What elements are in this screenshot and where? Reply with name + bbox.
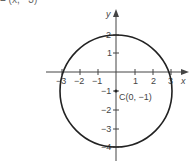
x-axis-label: x <box>180 76 186 86</box>
x-axis-arrow-icon <box>181 69 189 75</box>
x-tick-label: −1 <box>92 76 102 86</box>
y-axis-label: y <box>105 9 111 19</box>
y-tick-label: −2 <box>101 105 111 115</box>
center-point <box>114 89 117 92</box>
circle-diagram: x y −3 −2 −1 1 2 3 2 1 −1 −2 −3 −4 C(0, … <box>0 0 193 161</box>
center-label: C(0, −1) <box>119 92 152 102</box>
y-tick-label: −1 <box>101 86 111 96</box>
x-tick-label: 1 <box>133 76 138 86</box>
x-tick-label: −2 <box>74 76 84 86</box>
y-tick-label: 1 <box>107 48 112 58</box>
y-axis-arrow-icon <box>113 9 119 17</box>
x-tick-label: 2 <box>151 76 156 86</box>
y-tick-label: −3 <box>101 124 111 134</box>
